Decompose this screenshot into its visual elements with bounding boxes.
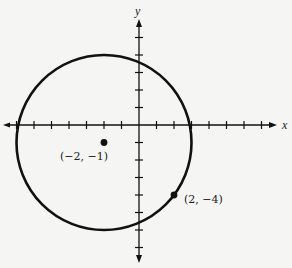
- center-point-label: (−2, −1): [60, 150, 108, 163]
- x-axis: [3, 121, 277, 129]
- coordinate-plane-figure: x y (−2, −1) (2, −4): [0, 0, 292, 268]
- x-axis-arrow-left-icon: [3, 123, 10, 128]
- x-axis-arrow-right-icon: [269, 122, 277, 128]
- y-axis-label: y: [134, 4, 141, 18]
- y-axis-arrow-down-icon: [136, 255, 142, 263]
- point-on-circle: [171, 192, 178, 199]
- point-on-circle-label: (2, −4): [184, 193, 223, 206]
- x-axis-label: x: [281, 118, 288, 132]
- y-axis-arrow-up-icon: [136, 19, 142, 27]
- graph-canvas: x y (−2, −1) (2, −4): [0, 0, 292, 268]
- y-axis: [135, 19, 143, 263]
- center-point: [101, 139, 108, 146]
